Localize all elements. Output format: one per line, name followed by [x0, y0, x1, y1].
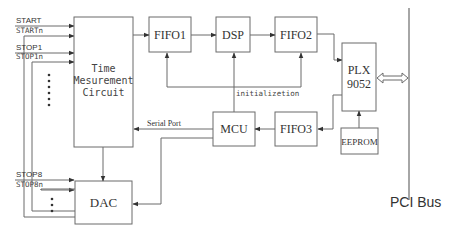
ellipsis-dots	[48, 74, 54, 213]
plx9052-block: PLX 9052	[342, 43, 376, 111]
plx-pci-double-arrow	[377, 73, 408, 83]
start-label: START	[16, 16, 42, 25]
fifo1-label: FIFO1	[154, 28, 186, 42]
tmc-label-2: Mesurement	[73, 75, 133, 86]
serial-port-label: Serial Port	[147, 119, 182, 128]
startn-label: STARTn	[16, 26, 43, 35]
dac-loop-1	[32, 203, 75, 211]
eeprom-block: EEPROM	[341, 128, 378, 154]
eeprom-label: EEPROM	[341, 137, 378, 147]
fifo2-label: FIFO2	[280, 28, 312, 42]
mcu-block: MCU	[213, 112, 255, 146]
initialization-label: initializetion	[236, 89, 299, 98]
stop1n-label: STOP1n	[16, 52, 43, 61]
mcu-label: MCU	[220, 122, 248, 136]
stop8n-label: STOP8n	[16, 180, 43, 189]
plx-to-fifo3-wire	[318, 95, 342, 129]
fifo2-to-plx-wire	[317, 34, 342, 60]
fifo2-block: FIFO2	[275, 17, 317, 52]
fifo3-block: FIFO3	[275, 112, 317, 146]
fifo3-label: FIFO3	[280, 122, 312, 136]
initialization-wires	[167, 53, 301, 112]
dsp-label: DSP	[222, 28, 244, 42]
tmc-label-1: Time	[91, 63, 115, 74]
plx-label-2: 9052	[347, 77, 371, 91]
mcu-to-dac-wire	[133, 138, 213, 204]
pci-bus-label: PCI Bus	[390, 194, 441, 210]
fifo1-block: FIFO1	[149, 17, 191, 52]
plx-label-1: PLX	[348, 63, 371, 77]
time-measurement-block: Time Mesurement Circuit	[73, 17, 133, 147]
dac-block: DAC	[75, 181, 132, 224]
dac-label: DAC	[90, 195, 117, 210]
stop1-label: STOP1	[16, 43, 43, 52]
stop8-label: STOP8	[16, 170, 43, 179]
tmc-label-3: Circuit	[82, 87, 124, 98]
dsp-block: DSP	[216, 17, 250, 52]
block-diagram: Time Mesurement Circuit DAC FIFO1 DSP FI…	[0, 0, 453, 235]
